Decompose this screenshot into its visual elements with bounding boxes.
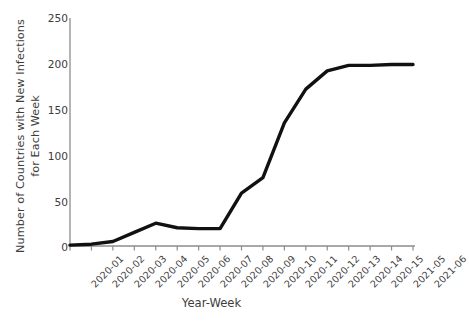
x-axis-title: Year-Week: [0, 296, 423, 310]
data-series-line: [70, 65, 413, 246]
axis-lines: [70, 18, 415, 246]
x-axis-ticks: [70, 246, 413, 251]
